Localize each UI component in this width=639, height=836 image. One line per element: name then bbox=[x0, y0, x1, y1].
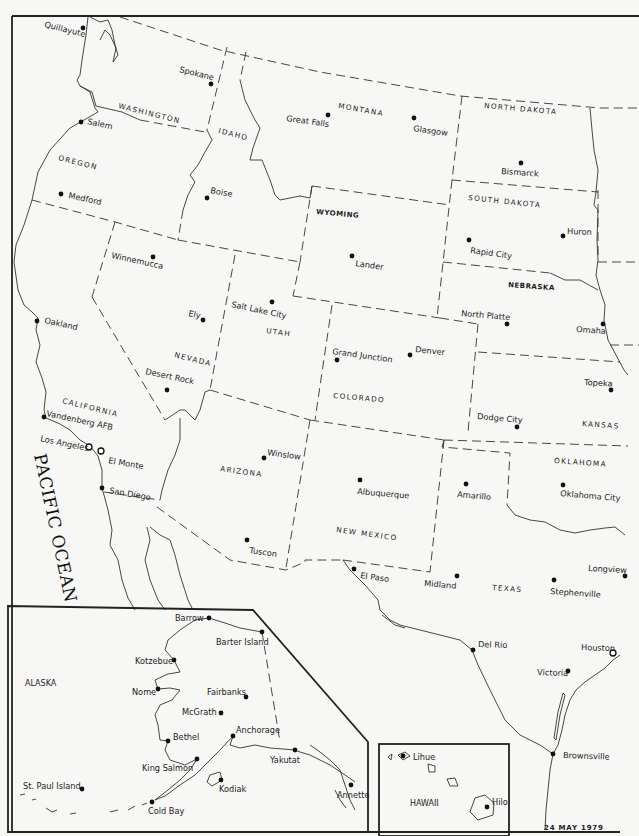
station-label: Lihue bbox=[413, 752, 435, 762]
station-dot-icon bbox=[205, 196, 210, 201]
station-dot-icon bbox=[59, 192, 64, 197]
station-dot-icon bbox=[219, 711, 224, 716]
station-dot-icon bbox=[515, 425, 520, 430]
station-dot-icon bbox=[293, 748, 298, 753]
station-dot-icon bbox=[358, 478, 363, 483]
station-dot-icon bbox=[262, 456, 267, 461]
station-dot-icon bbox=[326, 113, 331, 118]
weather-station-map: WASHINGTONOREGONIDAHOMONTANANORTH DAKOTA… bbox=[0, 0, 639, 836]
station-dot-icon bbox=[260, 630, 265, 635]
station-dot-icon bbox=[505, 322, 510, 327]
station-label: Annette bbox=[337, 790, 369, 800]
station-st-paul-island[interactable]: St. Paul Island bbox=[23, 781, 84, 791]
station-label: Bethel bbox=[173, 732, 199, 742]
station-dot-icon bbox=[455, 574, 460, 579]
station-label: Fairbanks bbox=[207, 687, 246, 697]
station-label: Huron bbox=[567, 226, 592, 237]
station-label: McGrath bbox=[182, 707, 217, 717]
station-label: Del Rio bbox=[478, 639, 508, 650]
station-label: Victoria bbox=[537, 667, 568, 678]
station-label: Longview bbox=[588, 563, 627, 575]
station-label: Kodiak bbox=[219, 784, 246, 794]
station-dot-icon bbox=[150, 800, 155, 805]
station-label: Hilo bbox=[492, 797, 508, 807]
station-dot-icon bbox=[201, 318, 206, 323]
station-dot-icon bbox=[165, 388, 170, 393]
station-dot-icon bbox=[551, 752, 556, 757]
station-label: Barter Island bbox=[216, 637, 269, 647]
station-kotzebue[interactable]: Kotzebue bbox=[135, 656, 176, 666]
station-dot-icon bbox=[350, 254, 355, 259]
station-ring-icon bbox=[98, 448, 104, 454]
station-dot-icon bbox=[552, 578, 557, 583]
station-dot-icon bbox=[519, 161, 524, 166]
station-nome[interactable]: Nome bbox=[132, 687, 160, 697]
station-dot-icon bbox=[471, 648, 476, 653]
station-label: Topeka bbox=[583, 377, 613, 389]
station-dot-icon bbox=[219, 778, 224, 783]
station-label: Barrow bbox=[175, 613, 204, 623]
station-victoria[interactable]: Victoria bbox=[537, 667, 570, 678]
station-label: Nome bbox=[132, 687, 156, 697]
station-dot-icon bbox=[231, 734, 236, 739]
station-dot-icon bbox=[467, 238, 472, 243]
station-dot-icon bbox=[408, 353, 413, 358]
station-dot-icon bbox=[412, 116, 417, 121]
map-date: 24 MAY 1979 bbox=[544, 824, 604, 832]
hawaii-label: HAWAII bbox=[410, 799, 439, 808]
station-dot-icon bbox=[464, 482, 469, 487]
station-dot-icon bbox=[335, 358, 340, 363]
station-label: Cold Bay bbox=[148, 806, 184, 816]
station-label: St. Paul Island bbox=[23, 781, 81, 791]
station-label: Kotzebue bbox=[135, 656, 173, 666]
station-label: Yakutat bbox=[269, 755, 301, 765]
station-label: King Salmon bbox=[142, 763, 193, 773]
station-dot-icon bbox=[401, 754, 406, 759]
alaska-label: ALASKA bbox=[25, 679, 57, 688]
station-dot-icon bbox=[195, 757, 200, 762]
station-dot-icon bbox=[100, 486, 105, 491]
station-label: Brownsville bbox=[563, 750, 610, 762]
station-dot-icon bbox=[245, 538, 250, 543]
station-label: Houston bbox=[581, 642, 615, 653]
station-dot-icon bbox=[156, 687, 161, 692]
station-dot-icon bbox=[561, 234, 566, 239]
station-dot-icon bbox=[561, 483, 566, 488]
station-dot-icon bbox=[270, 300, 275, 305]
station-dot-icon bbox=[485, 805, 490, 810]
station-label: Omaha bbox=[576, 324, 606, 336]
station-dot-icon bbox=[79, 120, 84, 125]
station-label: Anchorage bbox=[236, 725, 280, 735]
station-dot-icon bbox=[352, 567, 357, 572]
station-dot-icon bbox=[35, 319, 40, 324]
station-dot-icon bbox=[166, 739, 171, 744]
station-dot-icon bbox=[349, 783, 354, 788]
station-dot-icon bbox=[207, 616, 212, 621]
